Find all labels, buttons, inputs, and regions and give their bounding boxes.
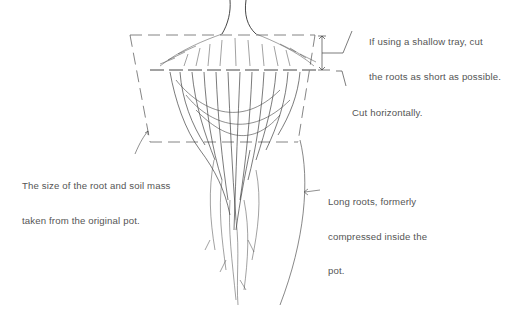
label-line: The size of the root and soil mass	[22, 180, 171, 192]
soil-mass	[160, 34, 316, 66]
dimension-marks	[318, 31, 352, 86]
cut-horizontally-label: Cut horizontally.	[352, 84, 423, 130]
pot-outline	[130, 35, 315, 142]
label-line: compressed inside the	[328, 231, 427, 243]
long-roots-label: Long roots, formerly compressed inside t…	[328, 173, 427, 288]
plant-stem	[222, 0, 256, 34]
label-line: Long roots, formerly	[328, 196, 427, 208]
label-line: taken from the original pot.	[22, 215, 171, 227]
label-line: pot.	[328, 265, 427, 277]
root-soil-mass-label: The size of the root and soil mass taken…	[22, 157, 171, 238]
shallow-tray-label: If using a shallow tray, cut the roots a…	[369, 13, 501, 94]
root-mass	[170, 72, 300, 230]
label-line: Cut horizontally.	[352, 107, 423, 119]
long-roots	[205, 140, 305, 305]
label-line: If using a shallow tray, cut	[369, 36, 501, 48]
label-line: the roots as short as possible.	[369, 71, 501, 83]
